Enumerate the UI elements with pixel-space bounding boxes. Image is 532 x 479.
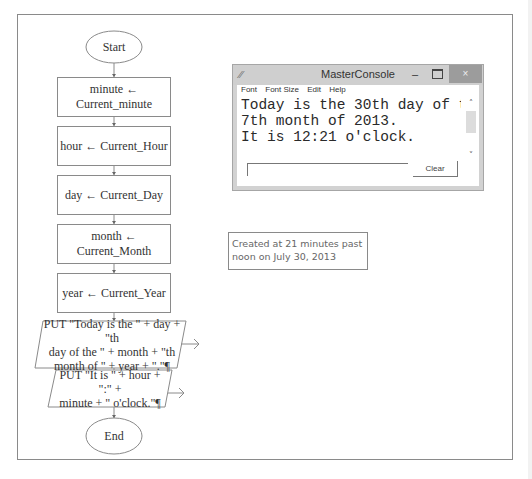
- output-text: day of the " + month + "th: [49, 345, 175, 359]
- minimize-button[interactable]: –: [409, 68, 421, 80]
- page-edge: [528, 0, 532, 479]
- month-assignment: month ← Current_Month: [58, 225, 170, 263]
- day-assignment: day ← Current_Day: [58, 176, 170, 214]
- maximize-button[interactable]: [432, 69, 443, 79]
- year-assignment: year ← Current_Year: [58, 274, 170, 312]
- hour-assignment: hour ← Current_Hour: [58, 127, 170, 165]
- output-text: PUT "Today is the " + day + "th: [40, 317, 184, 345]
- note-line: Created at 21 minutes past: [232, 237, 367, 250]
- end-label: End: [86, 418, 142, 454]
- console-line: Today is the 30th day of the: [241, 97, 461, 113]
- assignment-text: minute ←: [90, 82, 138, 97]
- output-text: minute + " o'clock."¶: [59, 396, 160, 410]
- console-line: 7th month of 2013.: [241, 113, 461, 129]
- flowchart: Start minute ← Current_minute hour ← Cur…: [0, 0, 220, 479]
- clear-button[interactable]: Clear: [413, 161, 458, 177]
- output-text: PUT "It is " + hour + ":" +: [52, 368, 168, 396]
- menu-help[interactable]: Help: [329, 85, 345, 94]
- title-bar[interactable]: ⁄⁄ MasterConsole – ×: [233, 65, 483, 85]
- console-client: Font Font Size Edit Help Today is the 30…: [237, 85, 479, 186]
- assignment-text: Current_minute: [76, 97, 152, 112]
- output-time-statement: PUT "It is " + hour + ":" + minute + " o…: [52, 371, 168, 407]
- start-label: Start: [86, 31, 142, 63]
- console-input[interactable]: [247, 163, 408, 176]
- menu-font[interactable]: Font: [241, 85, 257, 94]
- note-line: noon on July 30, 2013: [232, 250, 367, 263]
- window-title: MasterConsole: [233, 68, 483, 80]
- menu-bar: Font Font Size Edit Help: [237, 85, 479, 97]
- scroll-up-icon[interactable]: ˄: [465, 99, 477, 109]
- menu-edit[interactable]: Edit: [307, 85, 321, 94]
- close-button[interactable]: ×: [449, 65, 482, 83]
- console-line: It is 12:21 o'clock.: [241, 129, 461, 145]
- scroll-down-icon[interactable]: ˅: [465, 151, 477, 161]
- menu-font-size[interactable]: Font Size: [265, 85, 299, 94]
- output-date-statement: PUT "Today is the " + day + "th day of t…: [40, 322, 184, 368]
- vertical-scrollbar[interactable]: ˄ ˅: [465, 99, 477, 161]
- console-output[interactable]: Today is the 30th day of the7th month of…: [241, 97, 461, 147]
- creation-note: Created at 21 minutes past noon on July …: [228, 232, 368, 270]
- minute-assignment: minute ← Current_minute: [58, 78, 170, 116]
- master-console-window: ⁄⁄ MasterConsole – × Font Font Size Edit…: [232, 64, 484, 191]
- scroll-thumb[interactable]: [466, 111, 476, 133]
